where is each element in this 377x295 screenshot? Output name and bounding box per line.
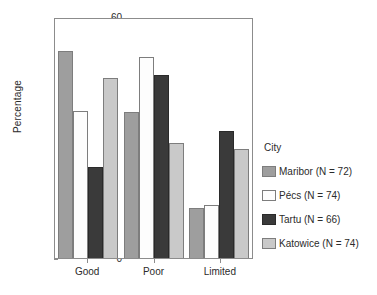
legend-swatch-maribor (262, 166, 276, 177)
legend-item-katowice: Katowice (N = 74) (262, 238, 374, 249)
bar-katowice-poor (169, 143, 184, 258)
legend-swatch-katowice (262, 238, 276, 249)
legend-items: Maribor (N = 72)Pécs (N = 74)Tartu (N = … (262, 166, 374, 249)
bar-groups (55, 19, 252, 258)
bar-chart: Percentage 0102030405060 GoodPoorLimited… (0, 0, 377, 295)
legend-item-pecs: Pécs (N = 74) (262, 190, 374, 201)
y-axis-label: Percentage (12, 62, 23, 152)
bar-tartu-good (88, 167, 103, 258)
legend-item-maribor: Maribor (N = 72) (262, 166, 374, 177)
legend-label-maribor: Maribor (N = 72) (279, 166, 352, 177)
legend-swatch-tartu (262, 214, 276, 225)
bar-maribor-poor (124, 112, 139, 258)
bar-group (55, 19, 121, 258)
bar-pecs-good (73, 111, 88, 258)
legend-label-katowice: Katowice (N = 74) (279, 238, 359, 249)
x-tick-mark (154, 259, 155, 263)
bar-tartu-limited (219, 131, 234, 258)
legend-swatch-pecs (262, 190, 276, 201)
bar-pecs-poor (139, 57, 154, 258)
x-tick-mark (87, 259, 88, 263)
bar-maribor-limited (189, 208, 204, 258)
bar-pecs-limited (204, 205, 219, 258)
x-tick-mark (220, 259, 221, 263)
legend-label-tartu: Tartu (N = 66) (279, 214, 340, 225)
x-tick-label: Limited (175, 266, 265, 277)
legend-title: City (262, 142, 374, 153)
legend-item-tartu: Tartu (N = 66) (262, 214, 374, 225)
bar-tartu-poor (154, 75, 169, 258)
y-tick-mark (54, 259, 58, 260)
bar-group (121, 19, 187, 258)
legend-label-pecs: Pécs (N = 74) (279, 190, 340, 201)
legend: City Maribor (N = 72)Pécs (N = 74)Tartu … (262, 142, 374, 262)
bar-katowice-good (103, 78, 118, 258)
bar-maribor-good (58, 51, 73, 258)
bar-katowice-limited (234, 149, 249, 258)
bar-group (186, 19, 252, 258)
